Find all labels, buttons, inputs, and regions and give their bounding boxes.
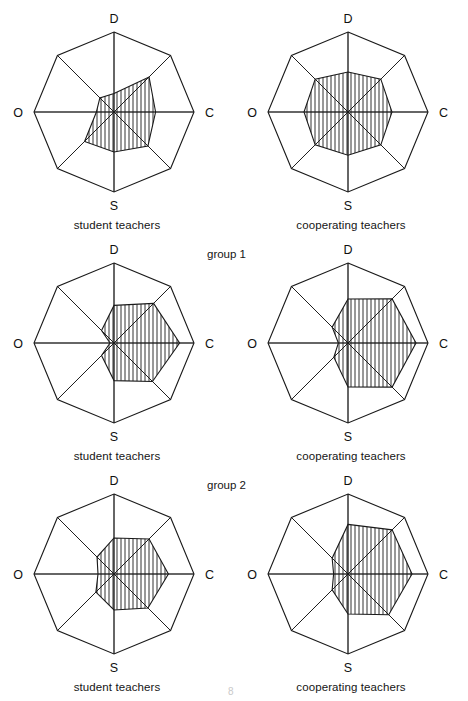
group-label-1: group 1 [207,248,246,260]
axis-label-O: O [13,568,23,582]
chart-caption: student teachers [0,450,234,462]
data-polygon [85,77,156,152]
radar-chart-group3-cooperating-teachers: DCSOcooperating teachers [234,470,468,693]
axis-label-D: D [343,12,352,26]
chart-caption: cooperating teachers [234,219,468,231]
chart-caption: cooperating teachers [234,450,468,462]
radar-chart-group1-student-teachers: DCSOstudent teachers [0,8,234,231]
radar-chart-figure: DCSOstudent teachersDCSOcooperating teac… [0,0,468,701]
axis-label-S: S [110,661,118,675]
axis-label-O: O [13,337,23,351]
axis-label-S: S [344,430,352,444]
radar-plot-group2-cooperating-teachers: DCSO [234,239,468,451]
radar-plot-group1-cooperating-teachers: DCSO [234,8,468,220]
radar-chart-group1-cooperating-teachers: DCSOcooperating teachers [234,8,468,231]
axis-label-C: C [205,106,214,120]
axis-label-O: O [13,106,23,120]
radar-chart-group3-student-teachers: DCSOstudent teachers [0,470,234,693]
axis-spoke-OD [57,55,114,112]
axis-spokes [268,32,428,192]
axis-label-D: D [109,12,118,26]
page-number: 8 [228,686,234,697]
axis-spoke-SO [291,343,348,400]
axis-label-S: S [344,199,352,213]
group-label-2: group 2 [207,479,246,491]
chart-caption: student teachers [0,219,234,231]
axis-spoke-SO [57,343,114,400]
axis-label-S: S [110,199,118,213]
axis-label-C: C [205,568,214,582]
chart-caption: student teachers [0,681,234,693]
axis-label-D: D [343,243,352,257]
axis-spoke-OD [57,517,114,574]
axis-label-C: C [439,337,448,351]
axis-label-S: S [110,430,118,444]
axis-spokes [34,494,194,654]
axis-spokes [268,263,428,423]
axis-spoke-OD [57,286,114,343]
axis-spokes [268,494,428,654]
axis-label-O: O [247,106,257,120]
radar-plot-group3-cooperating-teachers: DCSO [234,470,468,682]
radar-plot-group3-student-teachers: DCSO [0,470,234,682]
axis-label-S: S [344,661,352,675]
axis-spoke-SO [291,574,348,631]
axis-spokes [34,263,194,423]
axis-label-D: D [343,474,352,488]
axis-label-O: O [247,337,257,351]
axis-spokes [34,32,194,192]
axis-label-D: D [109,474,118,488]
axis-label-C: C [205,337,214,351]
axis-label-C: C [439,568,448,582]
radar-plot-group1-student-teachers: DCSO [0,8,234,220]
radar-chart-group2-cooperating-teachers: DCSOcooperating teachers [234,239,468,462]
chart-caption: cooperating teachers [234,681,468,693]
axis-label-C: C [439,106,448,120]
axis-label-D: D [109,243,118,257]
radar-plot-group2-student-teachers: DCSO [0,239,234,451]
radar-chart-group2-student-teachers: DCSOstudent teachers [0,239,234,462]
axis-label-O: O [247,568,257,582]
